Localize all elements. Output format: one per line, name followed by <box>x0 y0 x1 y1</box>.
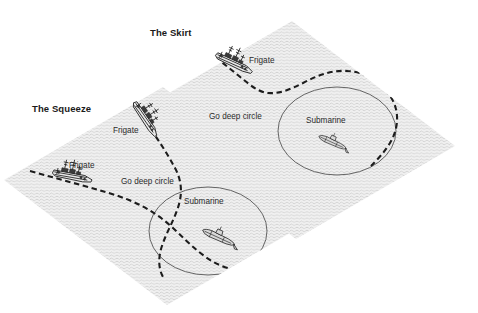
skirt-panel-title: The Skirt <box>150 27 192 38</box>
diagram-canvas: The Skirt Frigate Go deep circle Submari… <box>0 0 478 313</box>
squeeze-go-deep-circle-label: Go deep circle <box>121 177 174 186</box>
tactics-diagram: The Skirt Frigate Go deep circle Submari… <box>0 0 478 313</box>
squeeze-frigate-lower-label: Frigate <box>69 161 95 170</box>
squeeze-submarine-label: Submarine <box>184 197 224 206</box>
skirt-go-deep-circle-label: Go deep circle <box>209 112 262 121</box>
squeeze-panel-title: The Squeeze <box>32 103 91 114</box>
skirt-frigate-label: Frigate <box>249 56 275 65</box>
squeeze-frigate-upper-label: Frigate <box>113 126 139 135</box>
skirt-submarine-label: Submarine <box>306 116 346 125</box>
